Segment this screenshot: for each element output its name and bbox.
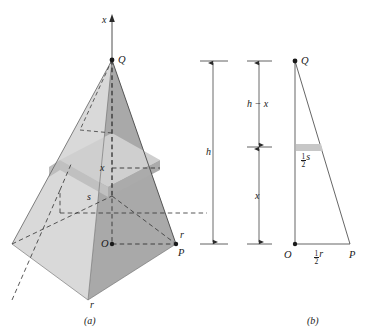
dimension-b-stack [247,61,272,244]
point-Q-dot [110,58,115,63]
figure-drawing [0,0,367,336]
dimension-label-x: x [255,191,259,201]
cross-section-point-Q-dot [293,59,298,64]
base-half-label: 1 2 r [314,250,323,265]
slice-half-side-denominator: 2 [301,161,306,168]
total-height-label-h: h [206,147,211,157]
half-diagonal-label-r: r [180,230,184,240]
base-half-denominator: 2 [314,258,319,265]
point-O-dot [110,242,114,246]
figure-container: x Q x s O P r r h (a) Q O P h − x x 1 2 … [0,0,367,336]
base-half-variable: r [319,249,323,259]
dimension-label-h-minus-x: h − x [247,99,268,109]
slice-half-side-label: 1 2 s [301,153,310,168]
point-label-O: O [101,239,109,250]
cross-section-point-label-O: O [284,250,292,261]
base-side-label-r: r [90,300,94,310]
point-label-P: P [178,248,184,259]
cross-section-point-O-dot [293,242,297,246]
point-P-dot [174,242,178,246]
axis-label-x: x [102,15,106,25]
cross-section-point-label-P: P [349,250,355,261]
slice-half-side-variable: s [306,152,310,162]
slice-side-label-s: s [87,192,91,202]
slice-height-label-x: x [100,163,104,173]
caption-panel-b: (b) [307,316,319,326]
dimension-h [200,61,228,244]
cross-section-slab [296,144,323,151]
point-label-Q: Q [118,55,126,66]
cross-section-point-label-Q: Q [301,56,309,67]
x-axis-arrowhead-icon [109,14,115,22]
caption-panel-a: (a) [84,316,96,326]
